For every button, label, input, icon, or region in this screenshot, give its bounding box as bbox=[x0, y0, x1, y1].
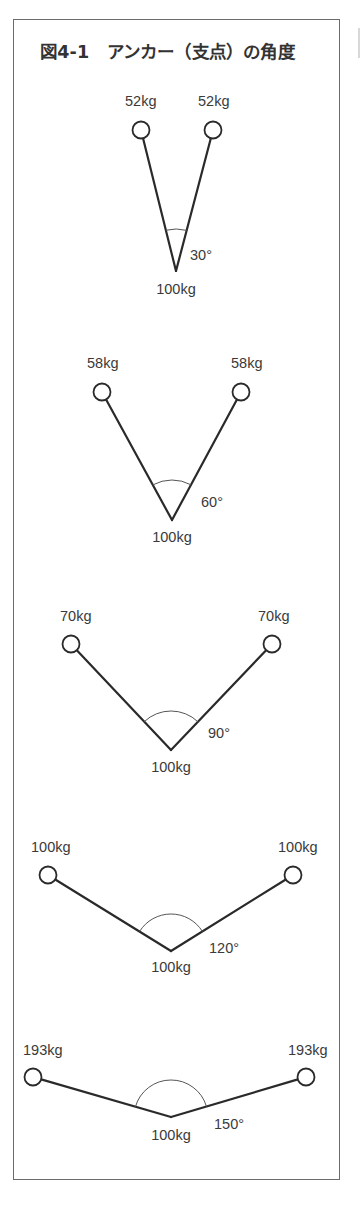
angle-diagram-150deg: 193kg193kg150°100kg bbox=[23, 1042, 328, 1143]
left-load-label: 100kg bbox=[31, 839, 71, 855]
left-rope-line bbox=[143, 138, 176, 271]
left-anchor-circle-icon bbox=[63, 636, 80, 653]
left-anchor-circle-icon bbox=[133, 122, 150, 139]
diagram-group-root: 52kg52kg30°100kg58kg58kg60°100kg70kg70kg… bbox=[23, 93, 328, 1143]
angle-diagram-120deg: 100kg100kg120°100kg bbox=[31, 839, 318, 975]
center-load-label: 100kg bbox=[151, 759, 191, 775]
left-anchor-circle-icon bbox=[25, 1069, 42, 1086]
left-rope-line bbox=[106, 399, 172, 520]
left-load-label: 58kg bbox=[87, 355, 118, 371]
center-load-label: 100kg bbox=[151, 1127, 191, 1143]
angle-arc bbox=[166, 229, 187, 230]
angle-diagram-90deg: 70kg70kg90°100kg bbox=[60, 608, 289, 775]
right-anchor-circle-icon bbox=[298, 1069, 315, 1086]
angle-label: 150° bbox=[214, 1116, 244, 1132]
right-load-label: 193kg bbox=[288, 1042, 328, 1058]
angle-label: 120° bbox=[209, 940, 239, 956]
right-anchor-circle-icon bbox=[285, 867, 302, 884]
angle-label: 30° bbox=[190, 247, 212, 263]
anchor-angle-diagrams: 52kg52kg30°100kg58kg58kg60°100kg70kg70kg… bbox=[0, 0, 360, 1224]
center-load-label: 100kg bbox=[156, 281, 196, 297]
angle-label: 90° bbox=[208, 725, 230, 741]
right-load-label: 70kg bbox=[258, 608, 289, 624]
angle-arc bbox=[144, 711, 198, 722]
right-load-label: 58kg bbox=[231, 355, 262, 371]
left-rope-line bbox=[55, 879, 171, 951]
center-load-label: 100kg bbox=[152, 529, 192, 545]
left-anchor-circle-icon bbox=[94, 384, 111, 401]
angle-diagram-60deg: 58kg58kg60°100kg bbox=[87, 355, 262, 545]
right-load-label: 100kg bbox=[278, 839, 318, 855]
left-load-label: 52kg bbox=[125, 93, 156, 109]
angle-diagram-30deg: 52kg52kg30°100kg bbox=[125, 93, 229, 297]
angle-arc bbox=[135, 1080, 206, 1107]
right-anchor-circle-icon bbox=[264, 636, 281, 653]
right-anchor-circle-icon bbox=[205, 122, 222, 139]
angle-arc bbox=[140, 914, 203, 932]
left-load-label: 70kg bbox=[60, 608, 91, 624]
left-anchor-circle-icon bbox=[40, 867, 57, 884]
left-rope-line bbox=[77, 650, 171, 750]
angle-label: 60° bbox=[201, 494, 223, 510]
center-load-label: 100kg bbox=[151, 959, 191, 975]
right-load-label: 52kg bbox=[198, 93, 229, 109]
left-load-label: 193kg bbox=[23, 1042, 63, 1058]
angle-arc bbox=[153, 480, 191, 485]
right-anchor-circle-icon bbox=[233, 384, 250, 401]
